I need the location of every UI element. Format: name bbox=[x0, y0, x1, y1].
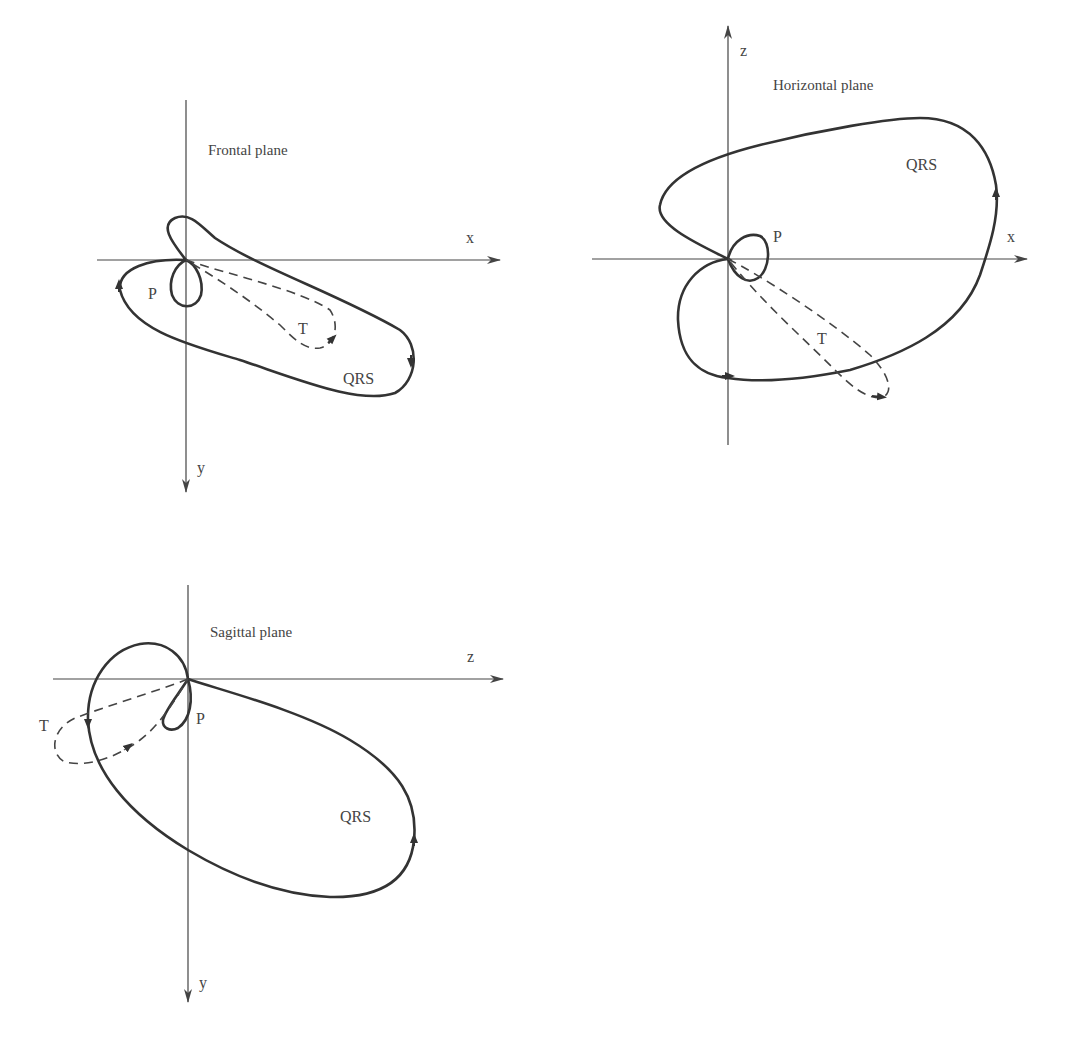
frontal-plane-title: Frontal plane bbox=[208, 142, 288, 158]
horizontal-p-loop bbox=[728, 235, 768, 281]
sagittal-p-label: P bbox=[196, 710, 205, 727]
horizontal-p-label: P bbox=[773, 228, 782, 245]
sagittal-plane-title: Sagittal plane bbox=[210, 624, 292, 640]
sagittal-t-loop bbox=[55, 679, 188, 763]
horizontal-z-axis-label: z bbox=[740, 42, 747, 59]
frontal-t-loop bbox=[186, 260, 335, 348]
horizontal-x-axis-label: x bbox=[1007, 228, 1015, 245]
frontal-p-label: P bbox=[148, 285, 157, 302]
sagittal-qrs-loop bbox=[88, 643, 415, 897]
horizontal-plane-panel: Horizontal plane z x P T QRS bbox=[592, 26, 1027, 445]
sagittal-y-axis-label: y bbox=[199, 974, 207, 992]
horizontal-qrs-loop bbox=[660, 118, 997, 380]
frontal-x-axis-label: x bbox=[466, 229, 474, 246]
vectorcardiogram-figure: Frontal plane x y P T QRS Horizontal pla… bbox=[0, 0, 1071, 1039]
frontal-t-label: T bbox=[298, 320, 308, 337]
horizontal-plane-title: Horizontal plane bbox=[773, 77, 874, 93]
sagittal-t-label: T bbox=[39, 717, 49, 734]
frontal-y-axis-label: y bbox=[197, 459, 205, 477]
sagittal-qrs-label: QRS bbox=[340, 808, 371, 825]
sagittal-z-axis-label: z bbox=[467, 648, 474, 665]
frontal-qrs-label: QRS bbox=[343, 370, 374, 387]
horizontal-t-label: T bbox=[817, 330, 827, 347]
frontal-plane-panel: Frontal plane x y P T QRS bbox=[97, 100, 500, 492]
horizontal-qrs-label: QRS bbox=[906, 156, 937, 173]
sagittal-plane-panel: Sagittal plane z y P T QRS bbox=[39, 585, 503, 1002]
